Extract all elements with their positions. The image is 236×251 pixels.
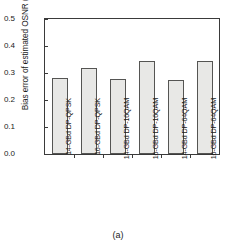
y-axis-tick-label: 0.5	[0, 15, 15, 23]
x-axis-tick-label: 14-GBd DP-QPSK	[64, 98, 74, 160]
x-axis-tick-label: 14-GBd DP-16QAM	[122, 98, 132, 160]
x-axis-tick-mark	[103, 154, 104, 158]
x-axis-tick-mark	[161, 154, 162, 158]
y-axis-tick-label: 0.3	[0, 69, 15, 77]
y-axis-tick-label: 0.2	[0, 96, 15, 104]
x-axis-tick-mark	[190, 154, 191, 158]
figure-panel: Bias error of estimated OSNR (dB) 0.00.1…	[0, 0, 236, 251]
y-axis-tick-label: 0.4	[0, 42, 15, 50]
y-axis-title: Bias error of estimated OSNR (dB)	[18, 0, 32, 128]
x-axis-tick-label: 14-GBd DP-64QAM	[180, 98, 190, 160]
x-axis-tick-label: 16-GBd DP-QPSK	[93, 98, 103, 160]
x-axis-tick-label: 16-GBd DP-64QAM	[209, 98, 219, 160]
x-axis-tick-mark	[74, 154, 75, 158]
figure-caption: (a)	[0, 230, 236, 240]
x-axis-tick-label: 16-GBd DP-16QAM	[151, 98, 161, 160]
y-axis-tick-label: 0.0	[0, 150, 15, 158]
x-axis-tick-mark	[132, 154, 133, 158]
y-axis-tick-label: 0.1	[0, 123, 15, 131]
